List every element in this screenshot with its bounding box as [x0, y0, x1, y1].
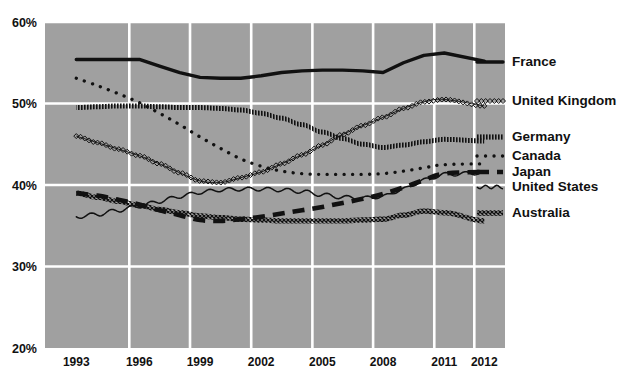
line-chart: 20%30%40%50%60% 199319961999200220052008…	[0, 0, 634, 375]
x-tick-label: 1996	[126, 355, 153, 369]
y-tick-label: 30%	[12, 260, 37, 274]
legend-swatch	[477, 210, 503, 216]
legend-label: France	[512, 54, 557, 69]
legend-label: Australia	[512, 205, 570, 220]
legend-label: Germany	[512, 129, 571, 144]
x-tick-label: 2002	[248, 355, 275, 369]
y-axis-tick-labels: 20%30%40%50%60%	[12, 16, 37, 356]
legend-swatch	[477, 134, 503, 139]
x-axis-tick-labels: 19931996199920022005200820112012	[63, 355, 498, 369]
x-tick-label: 1999	[187, 355, 214, 369]
y-tick-label: 20%	[12, 342, 37, 356]
y-tick-label: 50%	[12, 97, 37, 111]
y-tick-label: 60%	[12, 16, 37, 30]
legend-label: United Kingdom	[512, 93, 616, 108]
x-tick-label: 2012	[471, 355, 498, 369]
chart-container: 20%30%40%50%60% 199319961999200220052008…	[0, 0, 634, 375]
legend-label: Japan	[512, 164, 551, 179]
legend-label: Canada	[512, 148, 561, 163]
x-tick-label: 1993	[63, 355, 90, 369]
x-tick-label: 2005	[309, 355, 336, 369]
x-tick-label: 2011	[431, 355, 457, 369]
y-tick-label: 40%	[12, 179, 37, 193]
legend-label: United States	[512, 179, 598, 194]
x-tick-label: 2008	[370, 355, 397, 369]
